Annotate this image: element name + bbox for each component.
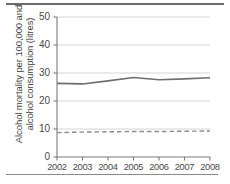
series-line-1 <box>57 77 210 83</box>
x-tick-label: 2003 <box>70 162 96 172</box>
axis-ticks <box>54 17 211 161</box>
x-tick-label: 2005 <box>121 162 147 172</box>
x-tick-label: 2002 <box>44 162 70 172</box>
x-tick-label: 2006 <box>146 162 172 172</box>
y-tick-label: 20 <box>28 96 50 106</box>
gridlines <box>57 17 210 129</box>
series-line-2 <box>57 131 210 133</box>
y-tick-label: 10 <box>28 124 50 134</box>
y-tick-label: 40 <box>28 40 50 50</box>
data-series-layer <box>57 77 210 132</box>
x-tick-label: 2008 <box>197 162 223 172</box>
x-tick-label: 2004 <box>95 162 121 172</box>
y-tick-label: 0 <box>28 152 50 162</box>
axis-lines <box>57 17 210 157</box>
chart-figure: Alcohol mortality per 100,000 and alcoho… <box>0 0 230 184</box>
x-tick-label: 2007 <box>172 162 198 172</box>
y-tick-label: 50 <box>28 12 50 22</box>
y-tick-label: 30 <box>28 68 50 78</box>
plot-area: 01020304050 2002200320042005200620072008 <box>0 0 230 184</box>
